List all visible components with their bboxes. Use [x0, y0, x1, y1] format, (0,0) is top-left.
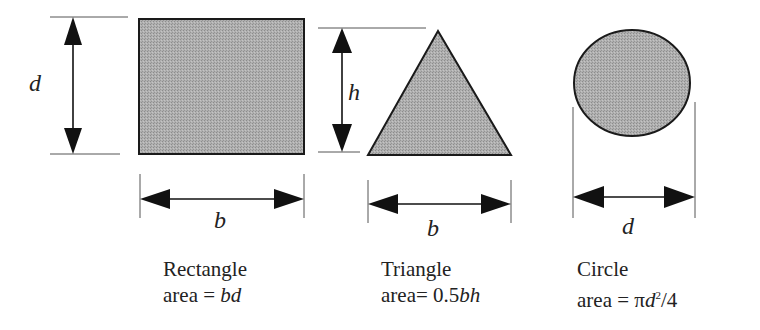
rectangle-area-formula: area = bd [163, 282, 247, 308]
triangle-width-label: b [427, 215, 439, 241]
triangle-height-label: h [348, 79, 360, 105]
rectangle-width-dimension: b [140, 174, 304, 233]
circle-caption: Circle area = πd2/4 [577, 256, 677, 313]
rectangle-name: Rectangle [163, 256, 247, 282]
arrow-left-icon [573, 186, 604, 208]
rectangle-height-label: d [29, 70, 42, 96]
triangle-shape [368, 31, 511, 155]
triangle-name: Triangle [381, 256, 480, 282]
rectangle-shape [139, 19, 304, 154]
rectangle-height-dimension: d [29, 17, 128, 154]
arrow-left-icon [368, 194, 398, 214]
arrow-up-icon [64, 17, 82, 45]
circle-name: Circle [577, 256, 677, 282]
triangle-width-dimension: b [368, 180, 511, 241]
arrow-right-icon [664, 186, 695, 208]
triangle-area-formula: area= 0.5bh [381, 282, 480, 308]
rectangle-caption: Rectangle area = bd [163, 256, 247, 308]
arrow-up-icon [332, 28, 352, 53]
circle-shape [574, 30, 690, 136]
arrow-right-icon [274, 189, 304, 209]
circle-area-formula: area = πd2/4 [577, 282, 677, 313]
arrow-left-icon [140, 189, 170, 209]
rectangle-width-label: b [214, 207, 226, 233]
arrow-down-icon [332, 124, 352, 152]
circle-diameter-label: d [622, 213, 635, 239]
arrow-down-icon [64, 128, 82, 154]
triangle-caption: Triangle area= 0.5bh [381, 256, 480, 308]
arrow-right-icon [481, 194, 511, 214]
